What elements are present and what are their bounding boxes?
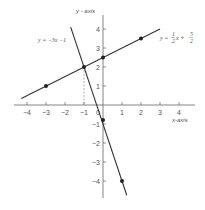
svg-text:−4: −4 [23,109,31,116]
point-0-2p5 [101,56,105,60]
svg-text:1: 1 [172,31,175,37]
svg-text:1: 1 [120,109,124,116]
svg-text:4: 4 [96,26,100,33]
svg-text:−3: −3 [42,109,50,116]
svg-text:−2: −2 [61,109,69,116]
svg-text:x +: x + [175,35,184,41]
svg-text:5: 5 [190,31,193,37]
svg-text:2: 2 [172,38,175,44]
y-tick-labels: 4 3 2 1 −1 −2 −3 −4 [92,26,100,185]
svg-text:4: 4 [177,109,181,116]
svg-text:−1: −1 [80,109,88,116]
svg-text:−2: −2 [92,140,100,147]
svg-text:−4: −4 [92,178,100,185]
svg-text:3: 3 [96,45,100,52]
svg-text:3: 3 [158,109,162,116]
svg-text:−1: −1 [92,121,100,128]
svg-text:2: 2 [139,109,143,116]
x-axis-title: x-axis [171,117,188,123]
svg-text:1: 1 [96,83,100,90]
point-2-3p5 [139,37,143,41]
point-m1-2 [82,65,86,69]
svg-text:y =: y = [159,35,168,41]
point-0-m1 [101,118,105,122]
svg-text:−3: −3 [92,159,100,166]
x-tick-labels: −4 −3 −2 −1 0 1 2 3 4 [23,109,181,116]
svg-text:2: 2 [96,64,100,71]
equation-label-line1: y = 1 2 x + 5 2 [159,31,193,44]
svg-text:2: 2 [190,38,193,44]
y-axis-title: y - axis [75,8,95,14]
point-m3-1 [44,84,48,88]
point-1-m4 [120,179,124,183]
chart: −4 −3 −2 −1 0 1 2 3 4 4 3 2 1 −1 −2 −3 −… [0,0,205,210]
equation-label-line2: y = −3x −1 [37,37,66,43]
